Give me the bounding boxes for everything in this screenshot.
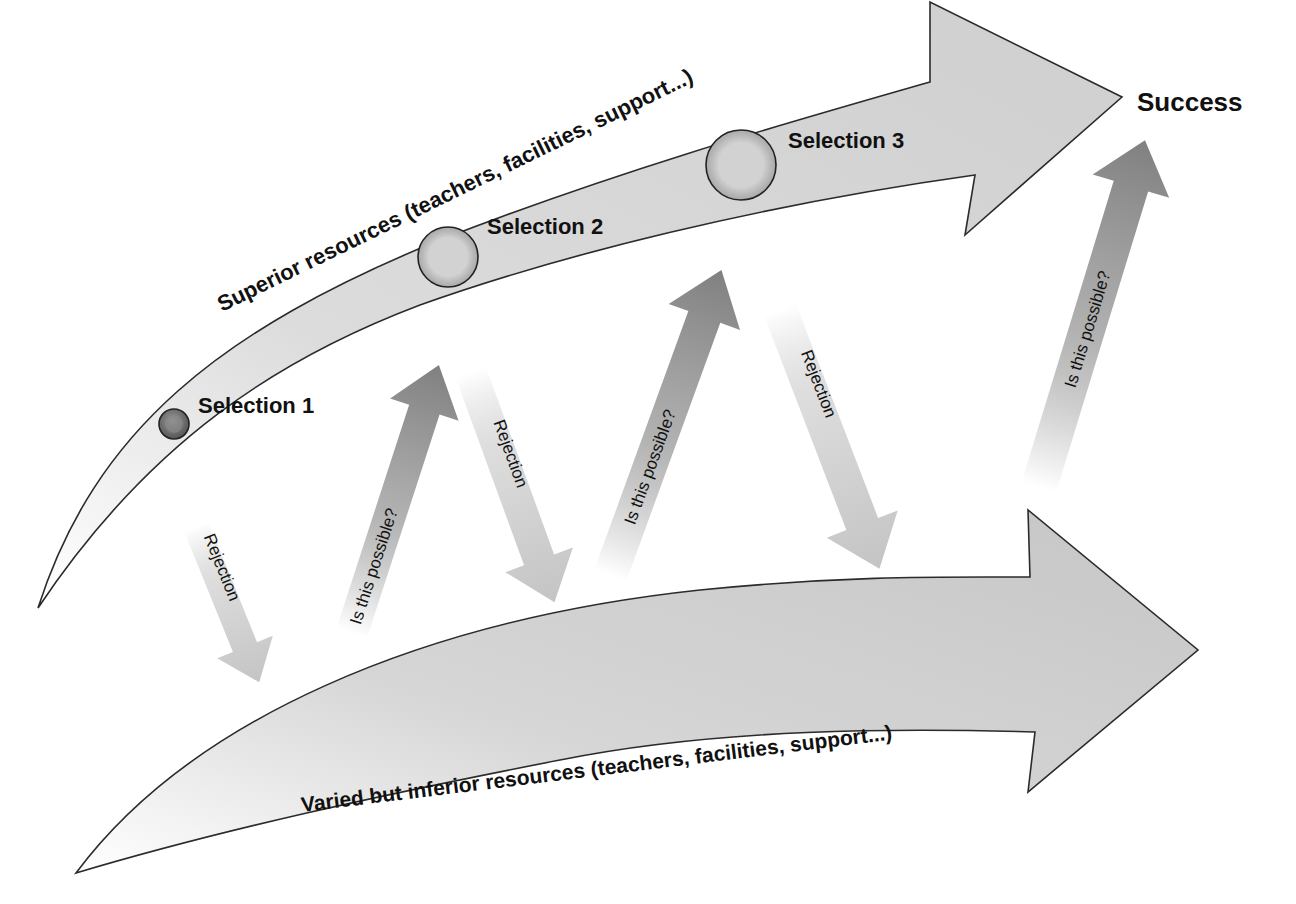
success-label: Success [1137,87,1243,117]
diagram-canvas: Rejection Is this possible? Rejection Is… [0,0,1296,904]
possible-arrow-2: Is this possible? [575,257,758,588]
rejection-arrow-3: Rejection [744,296,915,583]
selection-3-label: Selection 3 [788,128,904,153]
rejection-arrow-2: Rejection [437,360,588,615]
rejection-arrow-1: Rejection [168,515,287,693]
possible-arrow-3: Is this possible? [1001,129,1184,500]
upper-path-arrow [38,2,1122,608]
selection-1-label: Selection 1 [198,393,314,418]
possible-arrow-1: Is this possible? [317,354,473,644]
lower-path-arrow [76,510,1198,873]
selection-2-label: Selection 2 [487,214,603,239]
